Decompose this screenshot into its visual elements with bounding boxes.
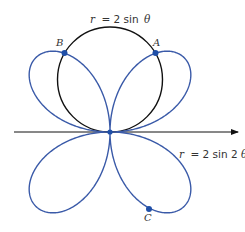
rose-equation-label: r = 2 sin 2 θ bbox=[179, 148, 245, 160]
point-a bbox=[153, 50, 159, 56]
polar-diagram: A B C r = 2 sin θ r = 2 sin 2 θ bbox=[0, 0, 245, 232]
circle-equation-lhs: r bbox=[90, 13, 96, 25]
circle-equation-var: θ bbox=[144, 13, 151, 25]
point-b bbox=[62, 50, 68, 56]
circle-equation-label: r = 2 sin θ bbox=[90, 13, 151, 25]
rose-equation-lhs: r bbox=[179, 148, 185, 160]
point-a-label: A bbox=[152, 37, 160, 48]
point-b-label: B bbox=[55, 37, 63, 48]
circle-equation-rhs: = 2 sin bbox=[101, 13, 140, 25]
circle-curve bbox=[58, 27, 163, 132]
rose-equation-var: θ bbox=[241, 148, 245, 160]
point-c-label: C bbox=[144, 212, 152, 223]
origin-point bbox=[107, 129, 112, 134]
rose-equation-rhs: = 2 sin 2 bbox=[190, 148, 237, 160]
